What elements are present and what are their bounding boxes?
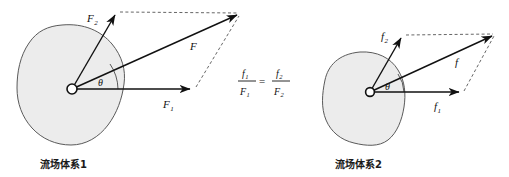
left-label-F1-subscript: 1 bbox=[170, 105, 174, 113]
right-panel-caption: 流场体系2 bbox=[335, 158, 382, 170]
left-dashed-top bbox=[120, 12, 238, 13]
formula-numerator-right: f2 bbox=[276, 68, 283, 80]
right-panel-group: f2 f1 f θ 流场体系2 bbox=[323, 30, 495, 170]
formula-numerator-left: f1 bbox=[242, 68, 248, 80]
left-label-F1: F1 bbox=[162, 98, 174, 113]
right-label-f1: f1 bbox=[434, 100, 441, 115]
left-label-F2: F2 bbox=[86, 12, 98, 27]
left-panel-caption: 流场体系1 bbox=[40, 158, 87, 170]
right-flow-field-blob bbox=[323, 52, 405, 145]
formula-denominator-left-sub: 1 bbox=[247, 91, 250, 98]
right-label-f1-subscript: 1 bbox=[438, 107, 442, 115]
formula-equals-sign: = bbox=[259, 75, 265, 87]
formula-denominator-right-sub: 2 bbox=[281, 91, 285, 98]
right-dashed-top bbox=[406, 34, 493, 35]
right-origin-point bbox=[366, 88, 375, 97]
left-dashed-right bbox=[196, 16, 239, 87]
formula-denominator-left: F1 bbox=[239, 86, 250, 98]
left-panel-group: F2 F1 F θ 流场体系1 bbox=[17, 12, 239, 170]
left-label-F-resultant: F bbox=[189, 40, 197, 52]
right-angle-theta-label: θ bbox=[385, 81, 390, 92]
right-label-f2: f2 bbox=[381, 30, 389, 45]
figure-canvas: F2 F1 F θ 流场体系1 f1 F1 = f2 F2 bbox=[0, 0, 509, 177]
left-label-F1-base: F bbox=[162, 98, 170, 110]
formula-numerator-right-sub: 2 bbox=[279, 73, 283, 80]
force-diagram-figure: F2 F1 F θ 流场体系1 f1 F1 = f2 F2 bbox=[0, 0, 509, 177]
formula-numerator-left-sub: 1 bbox=[245, 73, 248, 80]
right-label-f-resultant: f bbox=[455, 56, 460, 68]
formula-denominator-right: F2 bbox=[273, 86, 285, 98]
left-label-F2-subscript: 2 bbox=[94, 19, 98, 27]
right-dashed-right bbox=[464, 36, 494, 91]
center-formula-group: f1 F1 = f2 F2 bbox=[238, 68, 290, 98]
left-angle-theta-label: θ bbox=[98, 77, 103, 88]
left-origin-point bbox=[67, 84, 77, 94]
left-label-F2-base: F bbox=[86, 12, 94, 24]
right-label-f2-subscript: 2 bbox=[385, 37, 389, 45]
